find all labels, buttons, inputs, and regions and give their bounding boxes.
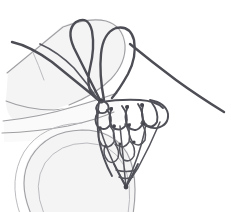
mesh-knot-r2-3 [125, 105, 129, 109]
illustration-canvas [0, 0, 231, 212]
mesh-knot-r4-3 [132, 140, 135, 143]
mesh-knot-r3-2 [112, 124, 116, 128]
hand-holding-net [2, 19, 136, 212]
netting-illustration: Netting in progress held on a hand [0, 0, 231, 212]
mesh-knot-r2-2 [109, 107, 113, 111]
net-tip-knot [124, 185, 129, 190]
long-tail-right [130, 44, 224, 112]
mesh-knot-r3-3 [127, 123, 131, 127]
mesh-knot-r2-4 [140, 103, 144, 107]
